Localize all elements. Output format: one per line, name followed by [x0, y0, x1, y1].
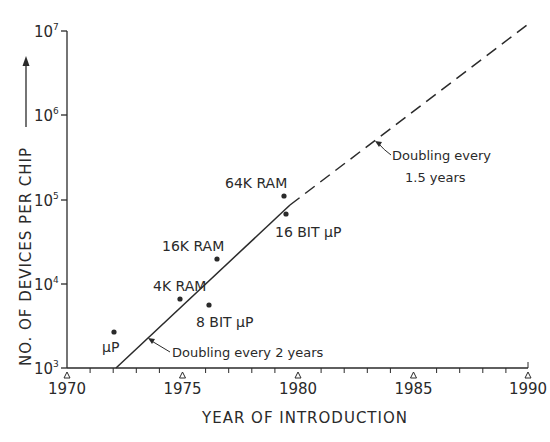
- y-tick-1e3: 103: [34, 359, 59, 378]
- point-8bit-up: [206, 302, 211, 307]
- y-axis: [61, 31, 67, 368]
- point-16bit-up: [283, 211, 288, 216]
- x-tick-1970: 1970: [48, 380, 86, 398]
- annotation-1_5yr-line1: Doubling every: [392, 148, 491, 163]
- y-tick-1e5: 105: [34, 191, 59, 210]
- annotation-2yr-text: Doubling every 2 years: [172, 345, 324, 360]
- point-16k-ram: [214, 256, 219, 261]
- x-tick-labels: 1970 1975 1980 1985 1990: [48, 380, 547, 398]
- x-tick-1980: 1980: [279, 380, 317, 398]
- y-axis-title: NO. OF DEVICES PER CHIP: [17, 147, 35, 366]
- label-64k-ram: 64K RAM: [225, 175, 287, 191]
- label-up: µP: [102, 339, 119, 355]
- x-axis-title: YEAR OF INTRODUCTION: [201, 409, 408, 427]
- y-tick-labels: 107 106 105 104 103: [34, 22, 59, 378]
- point-64k-ram: [281, 193, 286, 198]
- x-tick-1975: 1975: [163, 380, 201, 398]
- point-4k-ram: [177, 296, 182, 301]
- annotation-arrow-icon: [148, 338, 155, 344]
- y-tick-1e6: 106: [34, 106, 59, 125]
- point-up: [111, 329, 116, 334]
- x-tick-1990: 1990: [509, 380, 547, 398]
- label-4k-ram: 4K RAM: [153, 278, 206, 294]
- annotation-1_5yr: Doubling every 1.5 years: [375, 141, 491, 185]
- label-16k-ram: 16K RAM: [162, 238, 224, 254]
- x-tick-1985: 1985: [394, 380, 432, 398]
- y-tick-1e4: 104: [34, 275, 59, 294]
- x-axis: [64, 362, 531, 378]
- chart: 107 106 105 104 103: [0, 0, 550, 442]
- annotation-1_5yr-line2: 1.5 years: [405, 170, 466, 185]
- label-16bit-up: 16 BIT µP: [275, 224, 341, 240]
- label-8bit-up: 8 BIT µP: [196, 314, 253, 330]
- y-tick-1e7: 107: [34, 22, 59, 41]
- y-axis-arrow-icon: [23, 56, 30, 127]
- annotation-2yr: Doubling every 2 years: [148, 338, 324, 360]
